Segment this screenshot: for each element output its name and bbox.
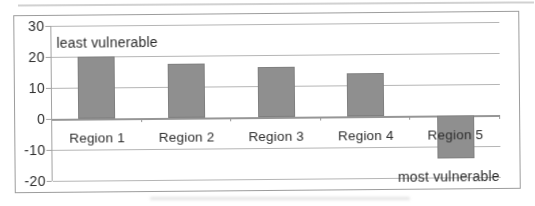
- gridline: [52, 146, 500, 151]
- scan-edge-line: [18, 1, 534, 6]
- y-axis: 3020100-10-20: [14, 12, 518, 16]
- y-axis-tick-label: 10: [15, 80, 45, 96]
- category-label: Region 2: [142, 129, 232, 145]
- bar-region-1: [78, 56, 116, 118]
- y-axis-tick: [47, 181, 52, 182]
- gridline: [51, 22, 499, 27]
- scan-smudge: [150, 197, 410, 200]
- bar-region-2: [168, 63, 205, 118]
- category-label: Region 5: [411, 127, 501, 143]
- y-axis-tick-label: -20: [16, 173, 46, 189]
- gridline: [52, 53, 500, 58]
- scanned-page: 3020100-10-20 least vulnerable most vuln…: [0, 0, 535, 206]
- annotation-most-vulnerable: most vulnerable: [398, 168, 500, 185]
- y-axis-tick-label: 20: [15, 49, 45, 65]
- category-label: Region 1: [52, 130, 142, 146]
- plot-area: least vulnerable most vulnerable Region …: [50, 22, 500, 181]
- axis-ticks: [14, 12, 518, 16]
- category-label: Region 3: [231, 129, 321, 145]
- category-label: Region 4: [321, 128, 411, 144]
- bar-region-4: [347, 73, 384, 117]
- y-axis-tick-label: 0: [15, 111, 45, 127]
- chart-frame: 3020100-10-20 least vulnerable most vuln…: [13, 11, 521, 193]
- bar-region-3: [257, 67, 294, 117]
- y-axis-tick-label: -10: [15, 142, 45, 158]
- annotation-least-vulnerable: least vulnerable: [56, 34, 157, 51]
- y-axis-tick-label: 30: [14, 18, 44, 34]
